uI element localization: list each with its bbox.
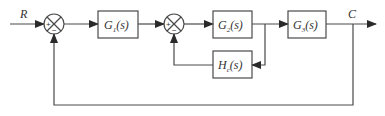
block-g2-label: G2(s) (218, 18, 243, 34)
s1-plus-sign: + (46, 20, 51, 29)
block-diagram: R C + − + − G1(s) G2(s) G3(s) Hc(s) (0, 0, 385, 116)
s2-plus-sign: + (166, 20, 171, 29)
s1-minus-sign: − (52, 26, 57, 35)
input-label: R (19, 7, 28, 21)
block-g3-label: G3(s) (293, 18, 318, 34)
output-label: C (348, 7, 357, 21)
block-g1-label: G1(s) (104, 18, 129, 34)
block-hc-label: Hc(s) (217, 58, 242, 74)
s2-minus-sign: − (172, 26, 177, 35)
inner-feedback-return (174, 34, 213, 65)
inner-feedback-branch (252, 24, 265, 65)
